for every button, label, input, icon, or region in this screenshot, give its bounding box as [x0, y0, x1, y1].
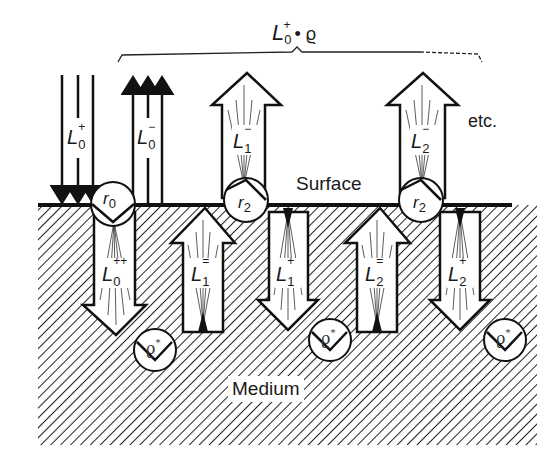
r2-circle-2: r2 [399, 178, 443, 222]
r2-circle-1: r2 [224, 178, 268, 222]
rho-circle-3: ϱ* [484, 319, 526, 361]
etc-label: etc. [468, 111, 497, 131]
top-brace-dashed [420, 52, 482, 62]
medium-label: Medium [232, 378, 300, 399]
surface-label: Surface [296, 173, 361, 194]
r0-circle: r0 [91, 182, 135, 226]
multiple-reflection-diagram: L0+• ϱ L0+ L0− L1− L2− L0++ [0, 0, 557, 475]
top-brace [118, 47, 420, 62]
top-label: L0+• ϱ [272, 18, 316, 47]
rho-circle-2: ϱ* [309, 319, 351, 361]
rho-circle-1: ϱ* [134, 329, 176, 371]
